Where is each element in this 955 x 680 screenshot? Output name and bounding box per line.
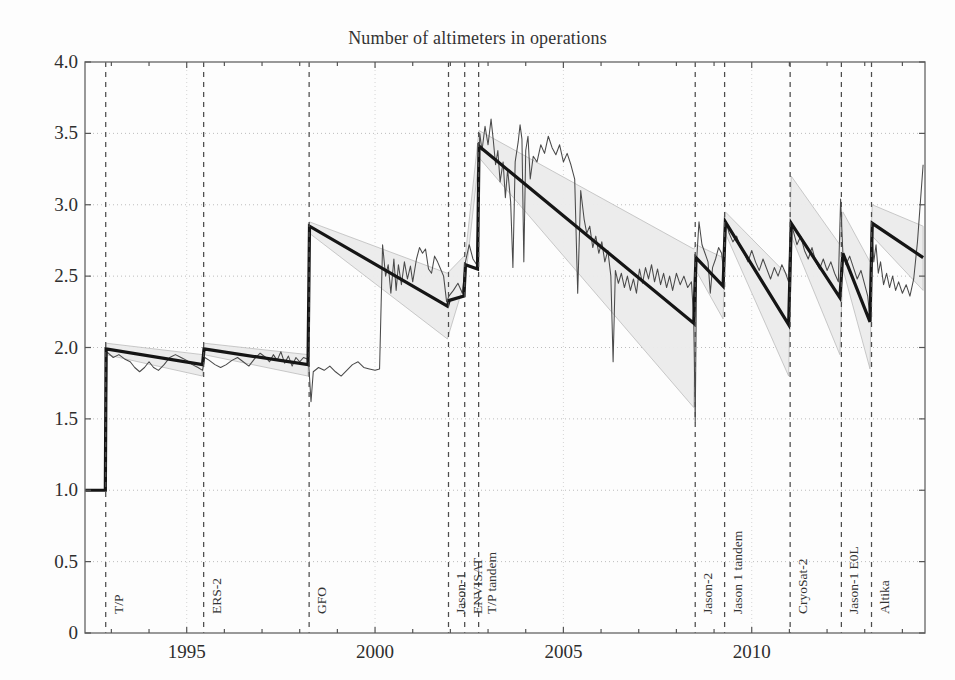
observed-series-line [85,119,923,490]
annotation-label-jason-2: Jason-2 [700,573,716,614]
annotation-label-t-p: T/P [111,594,127,614]
chart-page: Number of altimeters in operations 00.51… [0,0,955,680]
annotation-label-jason-1-tandem: Jason 1 tandem [730,531,746,614]
annotation-label-jason-1-e0l: Jason-1 E0L [846,546,862,614]
annotation-label-cryosat-2: CryoSat-2 [795,559,811,615]
annotation-label-jason-1: Jason-1 [453,573,469,614]
annotation-label-t-p-tandem: T/P tandem [484,552,500,614]
annotation-label-gfo: GFO [314,587,330,614]
annotation-label-altika: Altika [877,580,893,614]
annotation-label-ers-2: ERS-2 [209,578,225,614]
